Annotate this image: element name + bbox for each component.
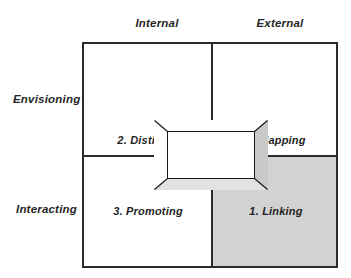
quadrant-label-linking: 1. Linking <box>213 205 339 217</box>
center-frame-bevel-top <box>154 120 268 131</box>
center-frame-inner-panel <box>167 131 255 179</box>
row-label-envisioning: Envisioning <box>13 93 80 105</box>
column-header-internal: Internal <box>112 17 202 29</box>
center-frame-bevel-bottom <box>154 179 268 190</box>
quadrant-label-promoting: 3. Promoting <box>85 205 211 217</box>
column-header-external: External <box>235 17 325 29</box>
matrix-diagram: Internal External Envisioning Interactin… <box>0 0 351 278</box>
row-label-interacting: Interacting <box>16 203 77 215</box>
center-beveled-frame <box>154 120 268 190</box>
